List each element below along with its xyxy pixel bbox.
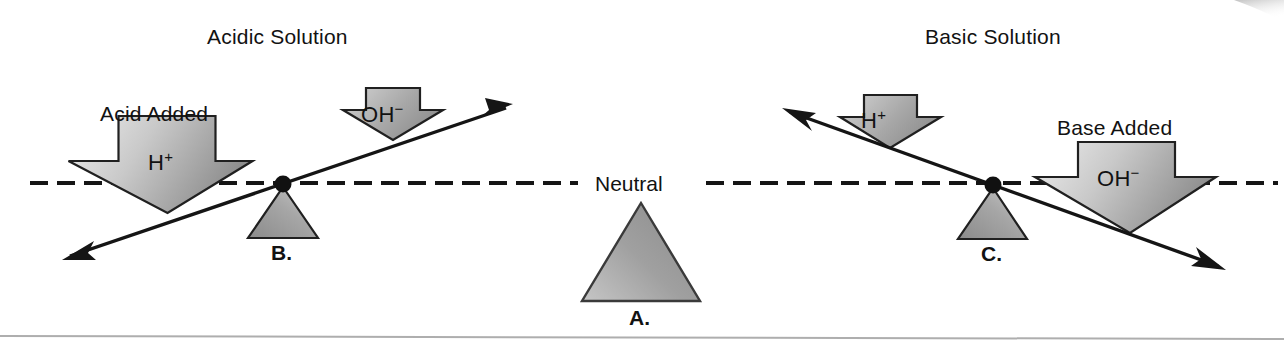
ion-label-oh-minus-left: OH−	[361, 104, 404, 126]
acid-base-balance-figure: Acidic Solution Basic Solution Acid Adde…	[0, 0, 1284, 351]
ion-symbol-oh: OH	[361, 102, 395, 127]
pivot-dot-b	[275, 176, 292, 193]
ion-symbol-oh: OH	[1097, 166, 1131, 191]
bottom-rule	[0, 336, 1284, 339]
h-plus-arrow-right	[840, 95, 941, 148]
ion-charge-plus: +	[164, 148, 173, 165]
ion-symbol-h: H	[861, 108, 877, 133]
ion-charge-plus: +	[877, 106, 886, 123]
ion-charge-minus: −	[395, 100, 404, 117]
fulcrum-label-a: A.	[629, 307, 650, 328]
scan-artifact	[1234, 0, 1284, 22]
pivot-dot-c	[985, 177, 1002, 194]
callout-acid-added: Acid Added	[100, 103, 208, 124]
ion-label-h-plus-left: H+	[148, 152, 173, 174]
neutral-triangle-a	[582, 203, 700, 301]
ion-label-h-plus-right: H+	[861, 110, 886, 132]
panel-title-basic: Basic Solution	[925, 26, 1061, 47]
panel-title-acidic: Acidic Solution	[207, 26, 348, 47]
fulcrum-label-c: C.	[981, 243, 1002, 264]
fulcrum-triangle-c	[958, 188, 1027, 239]
fulcrum-triangle-b	[248, 187, 318, 238]
ion-symbol-h: H	[148, 150, 164, 175]
fulcrum-label-b: B.	[271, 242, 292, 263]
ion-charge-minus: −	[1131, 164, 1140, 181]
callout-base-added: Base Added	[1057, 117, 1172, 138]
ion-label-oh-minus-right: OH−	[1097, 168, 1140, 190]
neutral-label: Neutral	[595, 173, 663, 194]
